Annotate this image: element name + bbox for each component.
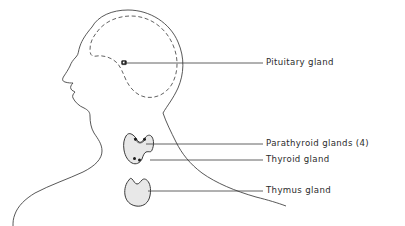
cranial-cavity-dashed-outline bbox=[90, 16, 177, 97]
leader-lines bbox=[124, 63, 263, 191]
neck-front-contour bbox=[13, 116, 102, 226]
diagram-canvas bbox=[0, 0, 405, 226]
endocrine-glands-diagram: Pituitary gland Parathyroid glands (4) T… bbox=[0, 0, 405, 226]
thymus-gland-shape bbox=[125, 178, 151, 206]
neck-back-contour bbox=[163, 113, 286, 206]
